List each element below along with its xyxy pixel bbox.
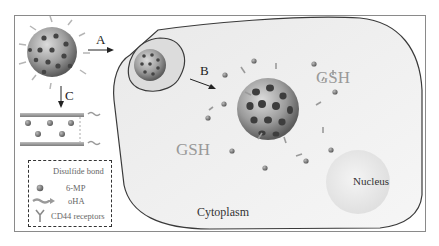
arrow-c [58, 86, 64, 108]
legend-disulfide-bond: Disulfide bond [53, 166, 104, 176]
step-label-a: A [96, 32, 105, 48]
legend-oha: oHA [68, 196, 85, 206]
step-label-c: C [65, 88, 74, 104]
released-nanoparticle [237, 78, 299, 140]
free-nanoparticle [19, 16, 90, 89]
step-label-b: B [200, 63, 209, 79]
gsh-label-lower: GSH [176, 140, 210, 160]
vessel [20, 113, 100, 147]
legend-6mp: 6-MP [66, 183, 85, 193]
gsh-label-upper: GSH [316, 68, 350, 88]
cytoplasm-label: Cytoplasm [197, 205, 249, 220]
nucleus-label: Nucleus [353, 175, 389, 187]
legend-cd44-receptors: CD44 receptors [51, 211, 105, 221]
endocytosed-nanoparticle [134, 49, 166, 81]
